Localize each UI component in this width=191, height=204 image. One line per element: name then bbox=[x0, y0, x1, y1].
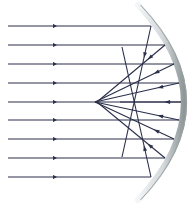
reflected-ray-1 bbox=[122, 26, 151, 157]
spherical-aberration-diagram bbox=[0, 0, 191, 204]
reflected-ray-arrow-icon bbox=[154, 130, 160, 134]
reflected-ray-arrow-icon bbox=[154, 70, 160, 74]
reflected-ray-arrow-icon bbox=[143, 52, 147, 58]
reflected-ray-arrow-icon bbox=[164, 100, 170, 104]
reflected-ray-arrow-icon bbox=[143, 145, 147, 151]
reflected-ray-arrow-icon bbox=[157, 85, 163, 89]
